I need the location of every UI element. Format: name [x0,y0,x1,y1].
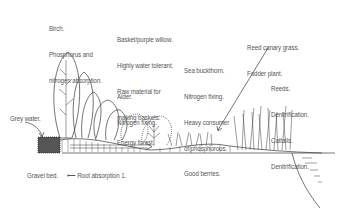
left-arrow-icon: ⟵ [67,171,77,180]
label-line: Highly water tolerant. [117,62,173,71]
gravel-bed [38,137,60,153]
label-line: Reed canary grass. [247,44,299,53]
label-line: Root absorption 1. [77,171,126,180]
label-line: Nitrogen fixing. [117,119,157,128]
label-alder: Alder. Nitrogen fixing. [117,76,157,136]
label-gravel-bed: Gravel bed. [27,155,58,189]
label-line: Phosphorus and [49,51,102,60]
label-line: nitrogen absorption. [49,77,102,86]
label-line: Nitrogen fixing. [184,93,229,102]
label-line: Birch. [49,25,102,34]
label-line: of phosphorous. [184,145,229,154]
label-line: Sea buckthorn. [184,67,229,76]
label-line: Denitrification. [271,111,309,120]
label-sea-buckthorn: Sea buckthorn. Nitrogen fixing. Heavy co… [184,50,229,188]
label-birch: Birch. Phosphorus and nitrogen absorptio… [49,8,102,94]
willow-tree [94,100,119,140]
label-line: Grey water. [10,115,41,124]
label-line: Energy forest. [117,139,173,148]
label-line: Good berries. [184,170,229,179]
label-line: Cattails. [271,137,309,146]
label-line: Gravel bed. [27,172,58,181]
label-reeds-cattails: Reeds. Denitrification. Cattails. Denitr… [271,68,309,180]
label-line: Alder. [117,93,157,102]
label-grey-water: Grey water. [10,98,41,132]
label-line: Denitrification. [271,163,309,172]
label-line: Heavy consumer [184,119,229,128]
label-line: Reeds. [271,85,309,94]
label-root-absorption: ⟵ Root absorption 1. [67,155,126,189]
label-line: Basket/purple willow. [117,36,173,45]
